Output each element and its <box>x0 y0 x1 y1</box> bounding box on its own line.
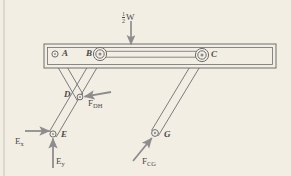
joint-label-E: E <box>61 130 67 139</box>
force-arrow-F-DH <box>85 92 112 97</box>
force-label-half-W: 1 2 W <box>122 11 135 25</box>
joint-E <box>50 131 56 137</box>
joint-G <box>152 130 159 137</box>
joint-B <box>93 47 106 60</box>
joint-D <box>77 94 83 100</box>
diagram-svg <box>0 0 291 176</box>
force-label-F-CG: FCG <box>142 157 156 168</box>
fraction-denominator: 2 <box>122 17 125 24</box>
force-label-E-x: Ex <box>15 137 24 148</box>
fraction-numerator: 1 <box>122 11 125 17</box>
force-label-E-y: Ey <box>56 157 65 168</box>
force-subscript: x <box>21 140 24 147</box>
force-subscript: y <box>62 160 65 167</box>
joint-label-C: C <box>211 50 217 59</box>
joint-label-A: A <box>62 49 68 58</box>
force-label-F-DH: FDH <box>88 99 102 110</box>
force-subscript: DH <box>93 102 102 109</box>
joint-label-B: B <box>86 49 92 58</box>
joint-label-G: G <box>164 130 171 139</box>
fraction-one-half: 1 2 <box>122 11 125 25</box>
horizontal-beam <box>44 44 276 68</box>
force-subscript: CG <box>147 160 156 167</box>
joint-label-D: D <box>64 90 71 99</box>
joint-A <box>52 51 58 57</box>
weight-symbol: W <box>126 12 135 22</box>
joint-C <box>195 48 208 61</box>
figure-canvas: A B C D E G 1 2 W FDH Ex Ey FCG <box>0 0 291 176</box>
